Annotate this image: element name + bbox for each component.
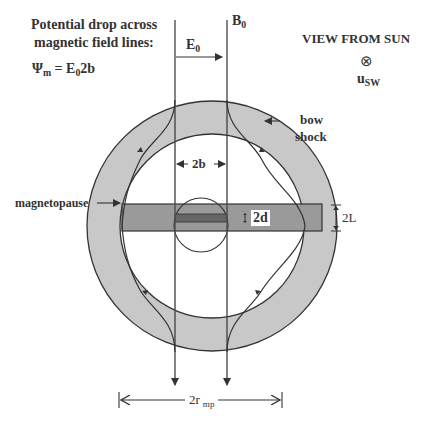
b0-label: B0: [232, 14, 246, 30]
magnetopause-label: magnetopause: [15, 197, 88, 209]
height-2l-label: 2L: [342, 211, 356, 224]
e0-label: E0: [186, 38, 200, 54]
potential-formula: Ψm = E02b: [32, 62, 95, 78]
inner-sheet: [175, 214, 227, 222]
thickness-2d-label: 2d: [251, 210, 270, 226]
solar-wind-velocity-label: uSW: [357, 72, 380, 88]
psi-symbol: Ψ: [32, 61, 43, 76]
view-from-sun-label: VIEW FROM SUN: [302, 32, 410, 45]
title-line-2: magnetic field lines:: [34, 36, 154, 50]
bow-shock-label-2: shock: [295, 130, 327, 143]
width-2b-label: 2b: [192, 157, 206, 170]
title-line-1: Potential drop across: [31, 18, 157, 32]
into-page-icon: ⊗: [360, 54, 373, 69]
radius-2rmp-label: 2rmp: [189, 393, 214, 409]
bow-shock-label-1: bow: [300, 113, 323, 126]
